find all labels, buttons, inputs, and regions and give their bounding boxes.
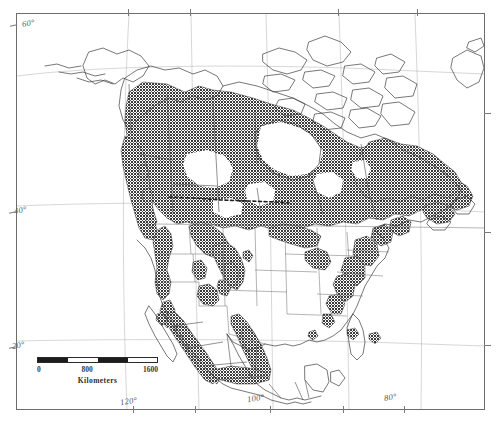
scale-tick-1600: 1600 [143,365,158,374]
tick-bottom-5 [404,406,405,413]
tick-right-2 [484,232,491,233]
tick-right-3 [484,345,491,346]
tick-top-4 [417,9,418,16]
scale-tick-0: 0 [37,365,41,374]
tick-top-1 [128,9,129,16]
tick-bottom-1 [133,406,134,413]
scale-bar-labels: 0 800 1600 [37,365,158,376]
map-figure: 60° 40° 20° 120° 100° 80° 0 800 1600 Kil… [0,0,501,426]
scale-bar-segment-1 [38,358,68,362]
tick-top-3 [338,9,339,16]
map-canvas [17,14,484,409]
tick-bottom-2 [195,406,196,413]
tick-top-2 [190,9,191,16]
scale-tick-800: 800 [81,365,92,374]
map-frame [16,13,485,410]
scale-bar-unit-label: Kilometers [37,376,158,385]
tick-bottom-3 [270,406,271,413]
scale-bar-segment-2 [98,358,128,362]
scale-bar-track [37,357,158,363]
lon-label-80: 80° [383,391,397,403]
tick-right-1 [484,113,491,114]
tick-bottom-4 [343,406,344,413]
scale-bar: 0 800 1600 Kilometers [37,357,158,385]
